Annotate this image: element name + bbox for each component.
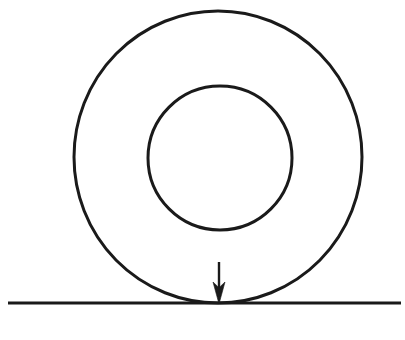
- diagram-canvas: Ring resting on a horizontal line with d…: [0, 0, 405, 340]
- figure-background: [0, 0, 405, 340]
- ring-on-line-figure: Ring resting on a horizontal line with d…: [0, 0, 405, 340]
